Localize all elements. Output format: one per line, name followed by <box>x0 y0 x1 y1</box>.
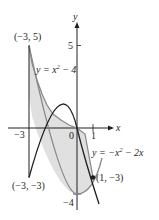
tick-label-y-5: 5 <box>68 40 73 51</box>
point-label-neg3-neg3: (−3, −3) <box>12 180 45 192</box>
x-axis-arrow-icon <box>108 126 114 131</box>
point-label-1-neg3: (1, −3) <box>96 172 123 184</box>
point-label-neg3-5: (−3, 5) <box>14 31 41 43</box>
tick-label-y-neg4: −4 <box>63 197 74 208</box>
curve-label-2: y = −x2 − 2x <box>91 147 144 158</box>
y-axis-label: y <box>72 11 78 22</box>
y-axis-arrow-icon <box>75 22 80 28</box>
curve-label-1: y = x2 − 4 <box>35 64 76 75</box>
area-between-curves-diagram: y x 5 −4 −3 0 1 (−3, 5) (−3, −3) (1, −3)… <box>0 0 159 220</box>
tick-label-x-neg3: −3 <box>14 129 25 140</box>
tick-label-x-1: 1 <box>91 130 96 141</box>
tick-label-x-0: 0 <box>69 130 74 141</box>
point-1-neg3 <box>91 175 96 180</box>
x-axis-label: x <box>115 122 121 133</box>
